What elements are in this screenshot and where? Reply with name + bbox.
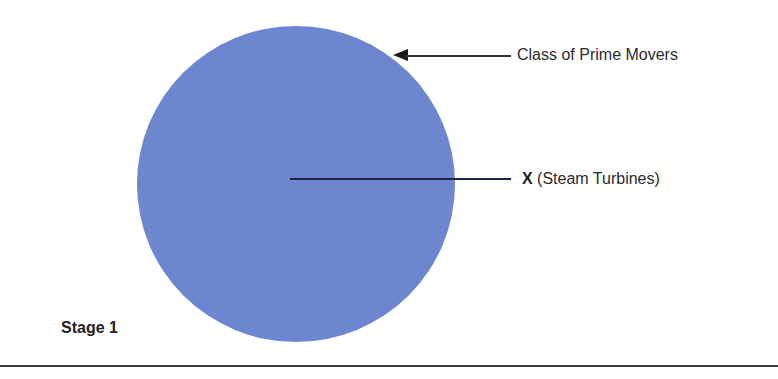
class-arrow-line [405,55,511,57]
class-label-text: Class of Prime Movers [517,46,678,63]
prime-movers-circle [137,26,455,342]
x-symbol: X [522,170,533,187]
x-leader-line [290,178,511,180]
venn-diagram-stage-1: Class of Prime Movers X (Steam Turbines)… [0,0,778,379]
class-of-prime-movers-label: Class of Prime Movers [517,45,678,65]
x-steam-turbines-label: X (Steam Turbines) [522,169,660,189]
stage-label: Stage 1 [61,318,118,338]
bottom-divider [0,365,778,367]
x-description: (Steam Turbines) [533,170,660,187]
